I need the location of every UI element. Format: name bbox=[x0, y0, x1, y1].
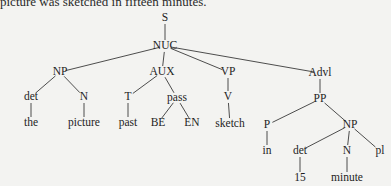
tree-node-past: past bbox=[119, 117, 138, 129]
tree-node-picture: picture bbox=[68, 117, 100, 129]
tree-node-det1: det bbox=[24, 91, 38, 103]
tree-node-np1: NP bbox=[53, 66, 68, 78]
tree-node-n1: N bbox=[80, 91, 88, 103]
tree-node-p: P bbox=[264, 119, 270, 131]
tree-node-aux: AUX bbox=[150, 66, 175, 78]
tree-node-v: V bbox=[224, 91, 232, 103]
tree-edges bbox=[0, 0, 391, 186]
tree-node-in: in bbox=[263, 145, 272, 157]
tree-node-s: S bbox=[162, 12, 168, 24]
edge-aux-t bbox=[133, 76, 157, 94]
tree-node-en: EN bbox=[184, 117, 199, 129]
edge-np2-det2 bbox=[305, 128, 344, 148]
tree-node-be: BE bbox=[151, 117, 166, 129]
edge-pp-p bbox=[272, 102, 314, 123]
tree-node-advl: Advl bbox=[309, 67, 332, 79]
tree-node-pass: pass bbox=[167, 92, 187, 104]
edge-np1-n1 bbox=[64, 76, 80, 92]
tree-node-t: T bbox=[124, 91, 131, 103]
tree-node-the: the bbox=[24, 117, 38, 129]
tree-node-vp: VP bbox=[221, 66, 236, 78]
tree-node-minute: minute bbox=[331, 172, 363, 184]
tree-node-n2: N bbox=[343, 145, 351, 157]
tree-node-np2: NP bbox=[343, 119, 358, 131]
edge-nuc-np1 bbox=[66, 47, 159, 70]
edge-np2-pl bbox=[355, 129, 376, 147]
edge-nuc-advl bbox=[171, 47, 314, 72]
edge-nuc-aux bbox=[163, 52, 165, 66]
tree-node-15: 15 bbox=[294, 172, 306, 184]
edge-np1-det1 bbox=[36, 76, 56, 93]
edge-v-sketch bbox=[228, 103, 229, 118]
tree-node-pp: PP bbox=[314, 93, 327, 105]
tree-node-nuc: NUC bbox=[153, 40, 177, 52]
edge-np2-n2 bbox=[348, 131, 350, 145]
tree-node-sketch: sketch bbox=[215, 118, 244, 130]
tree-node-pl: pl bbox=[376, 145, 385, 157]
tree-node-det2: det bbox=[293, 145, 307, 157]
